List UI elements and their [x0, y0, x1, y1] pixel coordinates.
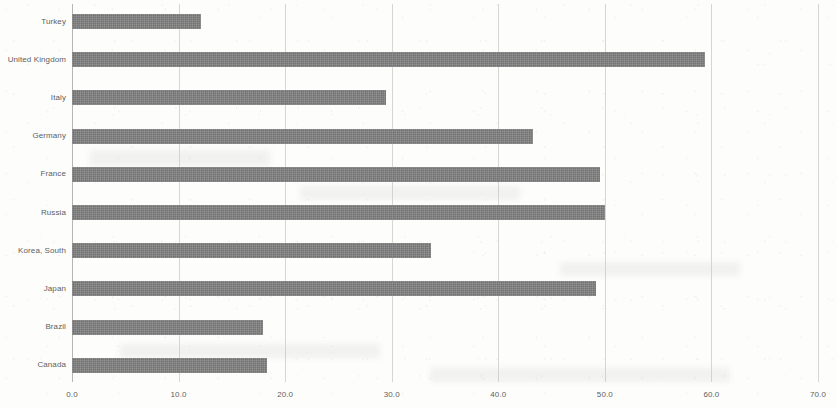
x-axis-tick-label: 40.0	[490, 390, 506, 399]
bar	[72, 90, 386, 105]
x-axis-tick-label: 20.0	[277, 390, 293, 399]
y-axis-category-label: Canada	[0, 360, 66, 369]
bar	[72, 205, 605, 220]
y-axis-category-label: Russia	[0, 208, 66, 217]
x-axis-tick-label: 10.0	[171, 390, 187, 399]
bar	[72, 167, 600, 182]
y-axis-category-label: Germany	[0, 131, 66, 140]
x-axis-tick-label: 70.0	[810, 390, 826, 399]
x-axis-tick-label: 0.0	[66, 390, 77, 399]
gridline	[711, 4, 712, 382]
bar-chart: TurkeyUnited KingdomItalyGermanyFranceRu…	[0, 0, 837, 408]
bar	[72, 52, 705, 67]
x-axis-tick-label: 60.0	[703, 390, 719, 399]
bar	[72, 129, 533, 144]
x-axis-tick-label: 50.0	[597, 390, 613, 399]
bar	[72, 243, 431, 258]
y-axis-category-label: Turkey	[0, 17, 66, 26]
y-axis-category-label: France	[0, 169, 66, 178]
y-axis-category-label: Japan	[0, 284, 66, 293]
bar	[72, 320, 263, 335]
y-axis-category-label: Brazil	[0, 322, 66, 331]
y-axis-category-label: United Kingdom	[0, 55, 66, 64]
bar	[72, 14, 201, 29]
bar	[72, 281, 596, 296]
gridline	[818, 4, 819, 382]
x-axis-tick-label: 30.0	[384, 390, 400, 399]
bar	[72, 358, 267, 373]
y-axis-category-label: Italy	[0, 93, 66, 102]
y-axis-category-label: Korea, South	[0, 246, 66, 255]
